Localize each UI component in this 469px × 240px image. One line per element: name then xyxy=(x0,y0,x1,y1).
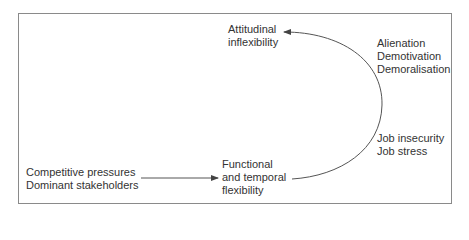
node-line: and temporal xyxy=(222,171,286,184)
node-line: inflexibility xyxy=(228,36,278,49)
node-line: Demoralisation xyxy=(377,63,450,76)
node-line: Job insecurity xyxy=(377,132,444,145)
node-attitudinal-inflexibility: Attitudinal inflexibility xyxy=(228,23,278,49)
node-line: flexibility xyxy=(222,184,286,197)
node-line: Functional xyxy=(222,158,286,171)
node-competitive-pressures: Competitive pressures Dominant stakehold… xyxy=(26,166,139,192)
node-job-insecurity: Job insecurity Job stress xyxy=(377,132,444,158)
node-line: Dominant stakeholders xyxy=(26,179,139,192)
flexibility-to-inflexibility-curve xyxy=(284,32,382,179)
node-line: Job stress xyxy=(377,145,444,158)
node-functional-temporal-flexibility: Functional and temporal flexibility xyxy=(222,158,286,197)
node-line: Attitudinal xyxy=(228,23,278,36)
node-line: Demotivation xyxy=(377,50,450,63)
node-alienation-demotivation: Alienation Demotivation Demoralisation xyxy=(377,37,450,76)
node-line: Competitive pressures xyxy=(26,166,139,179)
node-line: Alienation xyxy=(377,37,450,50)
